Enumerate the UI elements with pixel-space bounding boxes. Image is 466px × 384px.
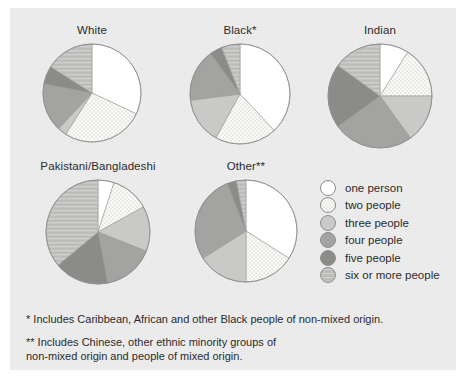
pie-graphic	[193, 178, 299, 284]
footnote-1: * Includes Caribbean, African and other …	[26, 312, 446, 327]
footnotes: * Includes Caribbean, African and other …	[26, 312, 446, 372]
legend-item-three: three people	[320, 214, 440, 232]
pie-svg	[193, 178, 299, 284]
legend-label: five people	[345, 252, 401, 264]
pie-graphic	[188, 42, 292, 146]
legend-label: three people	[345, 217, 409, 229]
pie-title: Other**	[172, 160, 320, 172]
pie-graphic	[41, 42, 143, 144]
legend-label: four people	[345, 234, 403, 246]
legend-item-two: two people	[320, 197, 440, 215]
pie-graphic	[326, 42, 434, 150]
legend-label: six or more people	[345, 269, 440, 281]
pie-title: Pakistani/Bangladeshi	[14, 160, 182, 172]
legend-label: two people	[345, 199, 401, 211]
legend-item-four: four people	[320, 232, 440, 250]
legend-swatch-five	[320, 250, 336, 266]
legend-item-five: five people	[320, 249, 440, 267]
pie-svg	[44, 178, 152, 286]
legend: one persontwo peoplethree peoplefour peo…	[320, 179, 440, 284]
legend-swatch-two	[320, 197, 336, 213]
legend-swatch-sixplus	[320, 267, 336, 283]
pie-chart-figure: White Black*	[0, 0, 466, 384]
legend-item-sixplus: six or more people	[320, 267, 440, 285]
legend-swatch-four	[320, 232, 336, 248]
pie-svg	[41, 42, 143, 144]
pie-title: White	[18, 24, 166, 36]
legend-swatch-one	[320, 180, 336, 196]
pie-svg	[326, 42, 434, 150]
pie-title: Indian	[306, 24, 454, 36]
pie-graphic	[44, 178, 152, 286]
pie-svg	[188, 42, 292, 146]
legend-swatch-three	[320, 215, 336, 231]
pie-title: Black*	[166, 24, 314, 36]
legend-item-one: one person	[320, 179, 440, 197]
footnote-2: ** Includes Chinese, other ethnic minori…	[26, 335, 446, 364]
legend-label: one person	[345, 182, 403, 194]
